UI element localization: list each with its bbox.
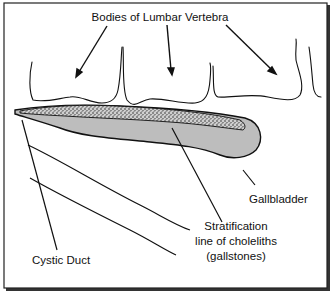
stratification-label-1: Stratification xyxy=(204,220,267,232)
frame xyxy=(4,3,327,288)
cystic-duct-label: Cystic Duct xyxy=(32,254,91,266)
stratification-label-2: line of choleliths xyxy=(195,235,277,247)
stratification-label-3: (gallstones) xyxy=(206,250,266,262)
gallbladder-diagram: Bodies of Lumbar Vertebra Gallbladder St… xyxy=(0,0,331,292)
vertebra-label: Bodies of Lumbar Vertebra xyxy=(92,11,229,23)
gallbladder-label: Gallbladder xyxy=(249,193,308,205)
